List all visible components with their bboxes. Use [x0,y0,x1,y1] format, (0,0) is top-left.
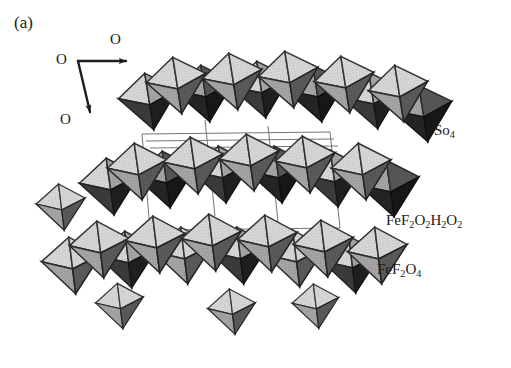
crystal-structure-figure: (a) O O O So4 FeF2O2H2O2 FeF2O4 [0,0,511,368]
axis-label-right: O [110,32,121,47]
label-so4: So4 [434,123,455,140]
label-fef2o4: FeF2O4 [377,262,421,279]
formula-sub: 2 [457,219,462,230]
so4-base: So [434,122,450,138]
formula-part: O [405,261,416,277]
formula-part: O [414,212,425,228]
formula-part: H [430,212,441,228]
label-fef2o2h2o2: FeF2O2H2O2 [386,213,462,230]
so4-sub: 4 [450,129,455,140]
formula-sub: 4 [416,268,421,279]
axis-label-down: O [60,112,71,127]
panel-label: (a) [14,14,33,31]
formula-part: O [446,212,457,228]
axis-label-origin: O [56,52,67,67]
polyhedral-structure-drawing [0,0,511,368]
formula-part: FeF [377,261,400,277]
formula-part: FeF [386,212,409,228]
